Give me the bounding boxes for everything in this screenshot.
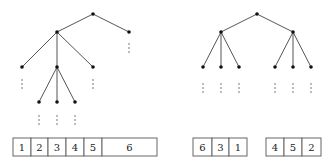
vertical-ellipsis-icon — [310, 83, 311, 92]
right-tree-node — [219, 65, 223, 69]
right-tree-edge — [203, 32, 221, 67]
array-cell-label: 6 — [199, 142, 205, 153]
right-array-1: 631 — [193, 138, 247, 156]
right-tree — [201, 12, 313, 93]
vertical-ellipsis-icon — [56, 115, 57, 124]
right-tree-edge — [275, 32, 293, 67]
right-tree-node — [237, 65, 241, 69]
array-cell: 2 — [31, 138, 48, 156]
left-tree-edge — [22, 32, 57, 67]
left-tree-node — [73, 100, 77, 104]
array-cell: 1 — [13, 138, 31, 156]
array-cell: 2 — [302, 138, 321, 156]
left-tree-edge — [39, 67, 57, 102]
array-cell-label: 2 — [36, 142, 42, 153]
right-tree-edge — [221, 14, 257, 32]
vertical-ellipsis-icon — [21, 79, 22, 88]
left-tree-node — [55, 30, 59, 34]
right-tree-node — [309, 65, 313, 69]
left-tree-node — [91, 65, 95, 69]
array-cell-label: 4 — [272, 142, 278, 153]
right-tree-node — [273, 65, 277, 69]
array-cell: 1 — [229, 138, 247, 156]
array-cell: 6 — [193, 138, 212, 156]
vertical-ellipsis-icon — [238, 83, 239, 92]
right-arrays: 631452 — [193, 138, 321, 156]
right-tree-node — [201, 65, 205, 69]
array-cell-label: 2 — [308, 142, 314, 153]
array-cell-label: 1 — [19, 142, 25, 153]
vertical-ellipsis-icon — [92, 79, 93, 88]
right-tree-node — [291, 65, 295, 69]
right-tree-node — [291, 30, 295, 34]
array-cell-label: 5 — [290, 142, 296, 153]
left-tree-node — [37, 100, 41, 104]
vertical-ellipsis-icon — [38, 115, 39, 124]
array-cell-label: 1 — [235, 142, 241, 153]
left-tree-edge — [57, 14, 93, 32]
right-tree-node — [255, 12, 259, 16]
array-cell: 4 — [66, 138, 84, 156]
left-tree — [20, 12, 131, 125]
left-tree-node — [55, 65, 59, 69]
right-tree-edge — [293, 32, 311, 67]
vertical-ellipsis-icon — [292, 83, 293, 92]
left-tree-edge — [57, 67, 75, 102]
array-cell-label: 3 — [217, 142, 223, 153]
array-cell-label: 4 — [72, 142, 78, 153]
left-tree-node — [127, 30, 131, 34]
left-tree-edge — [57, 32, 93, 67]
left-tree-node — [20, 65, 24, 69]
left-tree-edge — [93, 14, 129, 32]
vertical-ellipsis-icon — [274, 83, 275, 92]
left-tree-node — [55, 100, 59, 104]
right-tree-edge — [257, 14, 293, 32]
right-tree-node — [219, 30, 223, 34]
vertical-ellipsis-icon — [128, 43, 129, 52]
left-tree-node — [91, 12, 95, 16]
vertical-ellipsis-icon — [220, 83, 221, 92]
array-cell: 3 — [48, 138, 66, 156]
left-array: 123456 — [13, 138, 157, 156]
array-cell-label: 3 — [54, 142, 60, 153]
right-tree-edge — [221, 32, 239, 67]
right-array-2: 452 — [266, 138, 321, 156]
array-cell: 6 — [102, 138, 157, 156]
array-cell: 5 — [284, 138, 302, 156]
array-cell-label: 5 — [90, 142, 96, 153]
vertical-ellipsis-icon — [74, 115, 75, 124]
array-cell: 3 — [212, 138, 229, 156]
array-cell-label: 6 — [126, 142, 132, 153]
tree-array-diagram: 123456 631452 — [0, 0, 333, 164]
vertical-ellipsis-icon — [202, 83, 203, 92]
array-cell: 5 — [84, 138, 102, 156]
array-cell: 4 — [266, 138, 284, 156]
